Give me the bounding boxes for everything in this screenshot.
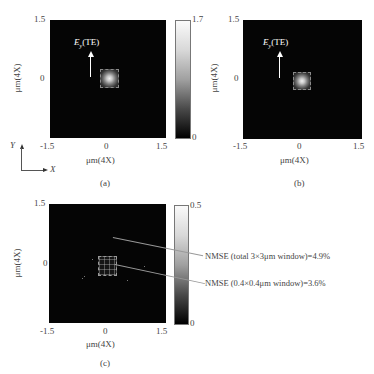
- a-xtick-left: -1.5: [40, 141, 54, 151]
- b-ytick-zero: 0: [234, 73, 239, 83]
- a-ytick-zero: 0: [40, 73, 45, 83]
- axis-x-line: [21, 170, 44, 171]
- c-caption: (c): [100, 358, 110, 368]
- axis-x-arrow-icon: [43, 168, 48, 172]
- c-speck: [92, 259, 93, 260]
- b-arrow-up-icon: [277, 51, 283, 57]
- b-arrow-shaft: [279, 57, 280, 78]
- a-colorbar: [175, 20, 191, 139]
- c-xtick-right: 1.5: [156, 326, 167, 336]
- nmse-total-annotation: NMSE (total 3×3μm window)=4.9%: [205, 251, 330, 261]
- c-error-square: [98, 256, 117, 276]
- a-xtick-right: 1.5: [156, 141, 167, 151]
- c-speck: [127, 280, 128, 281]
- a-arrow-up-icon: [88, 51, 94, 57]
- b-polarization-label: Ey(TE): [263, 37, 288, 49]
- b-heatmap: Ey(TE): [243, 20, 362, 139]
- a-polarization-label: Ey(TE): [74, 37, 99, 49]
- b-xlabel: μm(4X): [280, 155, 309, 165]
- c-xtick-zero: 0: [103, 326, 108, 336]
- b-caption: (b): [294, 178, 305, 188]
- axis-x-label: X: [50, 164, 56, 174]
- axis-y-line: [21, 148, 22, 171]
- c-xlabel: μm(4X): [86, 339, 115, 349]
- b-field-spot: [293, 72, 311, 90]
- a-xtick-zero: 0: [104, 141, 109, 151]
- c-xtick-left: -1.5: [40, 326, 54, 336]
- c-ytick-zero: 0: [43, 258, 48, 268]
- a-caption: (a): [100, 178, 110, 188]
- a-arrow-shaft: [90, 57, 91, 77]
- a-field-spot: [100, 69, 119, 88]
- c-speck: [144, 266, 145, 267]
- c-speck: [84, 276, 85, 277]
- c-colorbar-max: 0.5: [190, 200, 201, 210]
- b-xtick-left: -1.5: [233, 141, 247, 151]
- c-ytick-top: 1.5: [34, 198, 45, 208]
- c-ylabel: μm(4X): [12, 240, 22, 286]
- b-ytick-top: 1.5: [228, 14, 239, 24]
- c-colorbar: [174, 205, 189, 325]
- nmse-window-annotation: NMSE (0.4×0.4μm window)=3.6%: [205, 278, 326, 288]
- b-ylabel: μm(4X): [209, 55, 219, 101]
- a-colorbar-max: 1.7: [192, 14, 203, 24]
- c-speck: [82, 278, 83, 279]
- a-ytick-top: 1.5: [34, 14, 45, 24]
- a-ylabel: μm(4X): [12, 55, 22, 101]
- a-colorbar-min: 0: [192, 132, 197, 142]
- c-error-heatmap: [49, 204, 166, 323]
- c-colorbar-min: 0: [190, 318, 195, 328]
- a-heatmap: Ey(TE): [50, 20, 166, 138]
- a-xlabel: μm(4X): [86, 155, 115, 165]
- axis-y-label: Y: [10, 140, 15, 150]
- b-xtick-zero: 0: [297, 141, 302, 151]
- b-xtick-right: 1.5: [353, 141, 364, 151]
